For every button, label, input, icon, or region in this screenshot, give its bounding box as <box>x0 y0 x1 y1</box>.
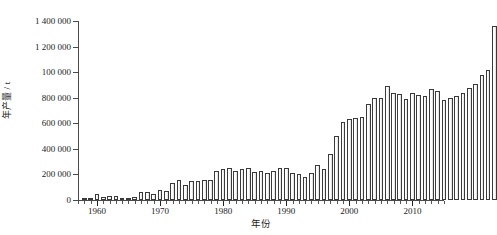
x-axis-minor-tick <box>198 201 199 204</box>
bar <box>303 177 308 200</box>
x-axis-minor-tick <box>280 201 281 204</box>
bar <box>315 165 320 200</box>
x-axis-minor-tick <box>387 201 388 204</box>
bar <box>139 192 144 200</box>
y-axis-tick-label: 200 000 <box>42 169 71 179</box>
bar <box>372 98 377 200</box>
x-axis-minor-tick <box>173 201 174 204</box>
x-axis-minor-tick <box>311 201 312 204</box>
bar <box>265 173 270 200</box>
bar <box>416 95 421 200</box>
x-axis-title: 年份 <box>78 216 444 230</box>
x-axis-minor-tick <box>122 201 123 204</box>
x-axis-minor-tick <box>400 201 401 204</box>
bar <box>435 91 440 200</box>
y-axis-tick-label: 0 <box>67 195 72 205</box>
bar <box>334 136 339 200</box>
x-axis-minor-tick <box>91 201 92 204</box>
y-axis-tick-label: 600 000 <box>42 118 71 128</box>
x-axis-minor-tick <box>431 201 432 204</box>
y-axis-tick-label: 800 000 <box>42 93 71 103</box>
x-axis-minor-tick <box>110 201 111 204</box>
bar <box>297 174 302 200</box>
x-axis-minor-tick <box>438 201 439 204</box>
bar <box>221 169 226 200</box>
bar <box>278 168 283 200</box>
bar <box>101 197 106 200</box>
bar <box>95 194 100 200</box>
x-axis-minor-tick <box>394 201 395 204</box>
x-axis-minor-tick <box>236 201 237 204</box>
bar <box>492 26 497 200</box>
bar <box>429 89 434 200</box>
y-axis-tick-label: 1 400 000 <box>35 16 71 26</box>
x-axis-minor-tick <box>305 201 306 204</box>
bar <box>145 192 150 200</box>
y-axis-tick-label: 1 200 000 <box>35 42 71 52</box>
bar <box>164 191 169 200</box>
bar <box>252 172 257 200</box>
bar <box>170 183 175 200</box>
bar <box>290 173 295 200</box>
bar <box>189 181 194 200</box>
bar <box>328 154 333 200</box>
x-axis-minor-tick <box>84 201 85 204</box>
bar <box>309 173 314 200</box>
x-axis-minor-tick <box>293 201 294 204</box>
x-axis-minor-tick <box>179 201 180 204</box>
x-axis-minor-tick <box>267 201 268 204</box>
x-axis-minor-tick <box>242 201 243 204</box>
x-axis-minor-tick <box>419 201 420 204</box>
bar <box>158 190 163 200</box>
x-axis-minor-tick <box>362 201 363 204</box>
bar <box>448 98 453 200</box>
bar <box>322 169 327 200</box>
x-axis-minor-tick <box>343 201 344 204</box>
x-axis-minor-tick <box>375 201 376 204</box>
bar <box>259 171 264 200</box>
x-axis-minor-tick <box>255 201 256 204</box>
bar <box>183 185 188 200</box>
x-axis-minor-tick <box>425 201 426 204</box>
x-axis-minor-tick <box>116 201 117 204</box>
bar <box>385 86 390 200</box>
bar <box>107 196 112 200</box>
x-axis-minor-tick <box>356 201 357 204</box>
bar <box>423 96 428 200</box>
x-axis-minor-tick <box>211 201 212 204</box>
y-axis-tick-label: 400 000 <box>42 144 71 154</box>
x-axis-minor-tick <box>274 201 275 204</box>
bar <box>379 98 384 200</box>
bar <box>214 171 219 200</box>
x-axis-minor-tick <box>261 201 262 204</box>
x-axis-minor-tick <box>368 201 369 204</box>
y-axis-tick-labels: 0200 000400 000600 000800 000100 0001 20… <box>0 0 78 235</box>
bar <box>177 180 182 200</box>
x-axis-minor-tick <box>204 201 205 204</box>
bar <box>271 171 276 200</box>
x-axis-minor-tick <box>103 201 104 204</box>
bar <box>202 180 207 200</box>
bar <box>233 171 238 200</box>
bar <box>341 122 346 200</box>
x-axis-tick-label: 2010 <box>403 206 421 216</box>
bar <box>397 94 402 200</box>
x-axis-minor-tick <box>229 201 230 204</box>
x-axis-minor-tick <box>299 201 300 204</box>
bar <box>227 168 232 200</box>
x-axis-minor-tick <box>128 201 129 204</box>
x-axis-minor-tick <box>192 201 193 204</box>
x-axis-tick-label: 1970 <box>151 206 169 216</box>
bar <box>347 119 352 200</box>
x-axis-minor-tick <box>141 201 142 204</box>
x-axis-minor-tick <box>166 201 167 204</box>
bar <box>240 169 245 200</box>
bar <box>120 198 125 200</box>
x-axis-tick-label: 2000 <box>340 206 358 216</box>
x-axis-minor-tick <box>135 201 136 204</box>
x-axis-minor-tick <box>324 201 325 204</box>
bar <box>461 93 466 200</box>
bar <box>151 194 156 200</box>
x-axis-tick-label: 1960 <box>88 206 106 216</box>
